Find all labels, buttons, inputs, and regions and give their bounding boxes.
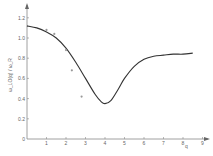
x-tick-label: 9 (201, 140, 204, 146)
experiment-points (45, 29, 82, 98)
ticks: 12345678900.20.40.60.81.01.2 (18, 15, 204, 146)
x-tick-label: 5 (123, 140, 126, 146)
y-tick-label: 0 (22, 136, 25, 142)
y-tick-label: 0.4 (18, 96, 25, 102)
y-tick-label: 0.6 (18, 75, 25, 81)
data-point (81, 95, 83, 97)
y-tick-label: 1.0 (18, 35, 25, 41)
y-tick-label: 0.8 (18, 55, 25, 61)
axes (25, 3, 210, 141)
y-tick-label: 1.2 (18, 15, 25, 21)
x-axis-label: q (185, 143, 188, 149)
x-tick-label: 3 (84, 140, 87, 146)
x-tick-label: 2 (65, 140, 68, 146)
x-tick-label: 7 (162, 140, 165, 146)
theory-curve-path (27, 26, 193, 104)
data-point (53, 33, 55, 35)
theory-curve (27, 26, 193, 104)
data-point (71, 69, 73, 71)
y-axis-label: ω_LO(q) / ω_R (7, 58, 13, 92)
y-axis-arrow-icon (25, 3, 29, 9)
x-axis-arrow-icon (204, 137, 210, 141)
chart-canvas: 12345678900.20.40.60.81.01.2 q ω_LO(q) /… (0, 0, 213, 156)
data-point (65, 49, 67, 51)
data-point (45, 29, 47, 31)
x-tick-label: 6 (143, 140, 146, 146)
y-tick-label: 0.2 (18, 116, 25, 122)
x-tick-label: 1 (45, 140, 48, 146)
x-tick-label: 4 (104, 140, 107, 146)
